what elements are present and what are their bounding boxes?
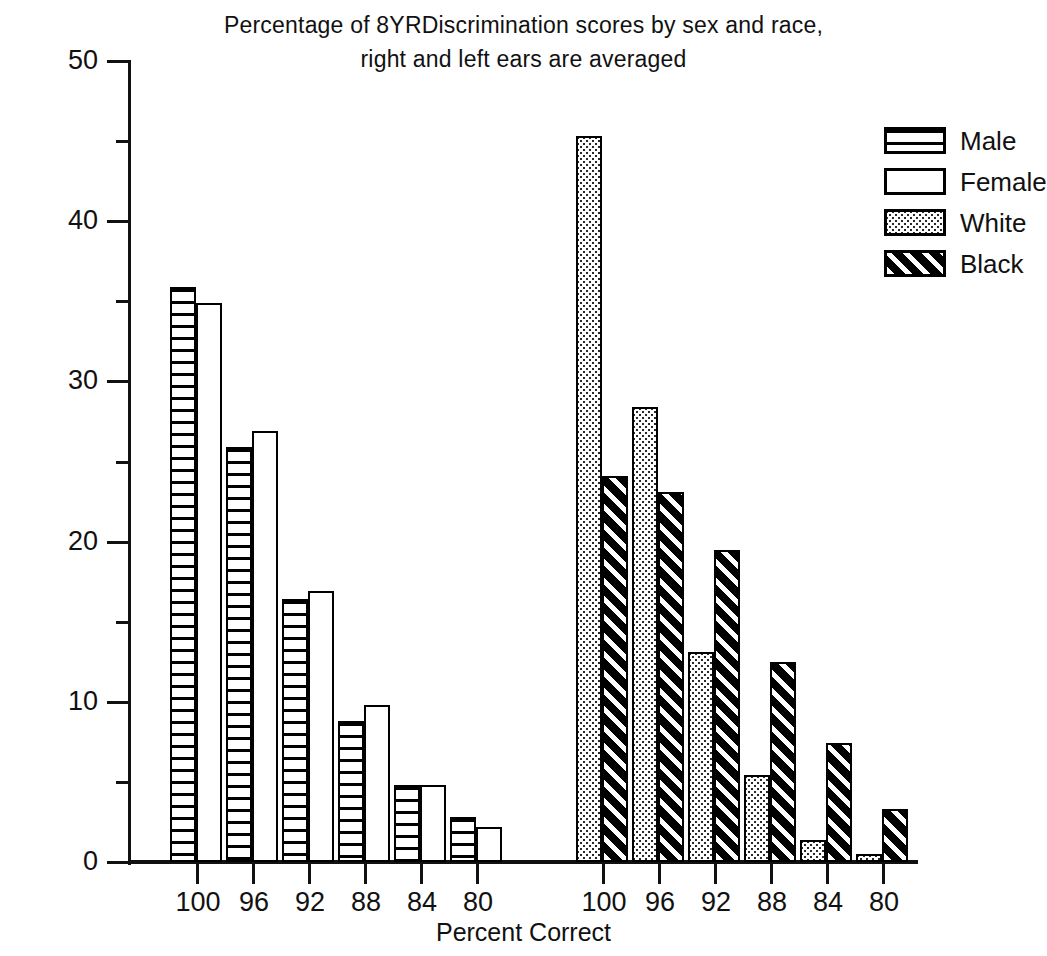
y-tick-label: 20 (36, 528, 98, 555)
y-tick-label: 40 (36, 207, 98, 234)
y-tick-minor (116, 621, 131, 624)
y-tick-major (107, 380, 131, 383)
legend-swatch-diagonal-stripes-icon (884, 250, 946, 277)
x-tick (882, 864, 885, 884)
bar-race-black-84 (826, 743, 852, 862)
legend-label: Black (960, 247, 1024, 281)
y-tick-major (107, 220, 131, 223)
bar-sex-female-80 (476, 827, 502, 862)
bar-sex-male-88 (338, 721, 364, 862)
x-tick (826, 864, 829, 884)
bar-race-white-84 (800, 840, 826, 862)
x-tick (308, 864, 311, 884)
y-tick-major (107, 60, 131, 63)
bar-race-black-80 (882, 809, 908, 862)
x-tick (602, 864, 605, 884)
legend-item-black[interactable]: Black (884, 247, 1044, 288)
legend-item-white[interactable]: White (884, 206, 1044, 247)
y-tick-minor (116, 461, 131, 464)
y-tick-minor (116, 140, 131, 143)
x-tick (196, 864, 199, 884)
bar-race-white-92 (688, 652, 714, 862)
x-axis-title: Percent Correct (0, 918, 1047, 947)
bar-sex-male-96 (226, 447, 252, 862)
bar-race-white-100 (576, 136, 602, 862)
bar-sex-female-88 (364, 705, 390, 862)
bar-sex-female-96 (252, 431, 278, 862)
y-tick-major (107, 861, 131, 864)
legend-swatch-empty-icon (884, 168, 946, 195)
x-tick (364, 864, 367, 884)
bar-race-black-96 (658, 492, 684, 862)
x-tick (420, 864, 423, 884)
x-tick-label: 80 (849, 888, 919, 916)
bar-sex-female-92 (308, 591, 334, 862)
y-tick-label: 50 (36, 47, 98, 74)
bar-sex-male-100 (170, 287, 196, 862)
bar-sex-female-100 (196, 303, 222, 862)
legend-label: Male (960, 124, 1016, 158)
y-tick-label: 10 (36, 688, 98, 715)
legend: MaleFemaleWhiteBlack (884, 124, 1044, 288)
legend-swatch-dotted-icon (884, 209, 946, 236)
bar-race-black-92 (714, 550, 740, 862)
x-tick-label: 80 (443, 888, 513, 916)
legend-item-male[interactable]: Male (884, 124, 1044, 165)
legend-label: White (960, 206, 1026, 240)
x-tick (658, 864, 661, 884)
bar-race-white-96 (632, 407, 658, 862)
bar-sex-male-84 (394, 785, 420, 862)
bar-sex-male-80 (450, 817, 476, 862)
legend-swatch-horizontal-stripes-icon (884, 127, 946, 154)
y-tick-major (107, 541, 131, 544)
chart-root: Percentage of 8YRDiscrimination scores b… (0, 0, 1047, 956)
y-tick-minor (116, 781, 131, 784)
bar-sex-male-92 (282, 599, 308, 862)
y-tick-major (107, 701, 131, 704)
y-tick-minor (116, 300, 131, 303)
x-tick (476, 864, 479, 884)
bar-sex-female-84 (420, 785, 446, 862)
legend-item-female[interactable]: Female (884, 165, 1044, 206)
bar-race-white-88 (744, 775, 770, 862)
bar-race-black-88 (770, 662, 796, 862)
x-tick (252, 864, 255, 884)
x-tick (770, 864, 773, 884)
x-tick (714, 864, 717, 884)
chart-title-line-1: Percentage of 8YRDiscrimination scores b… (224, 12, 823, 38)
bar-race-white-80 (856, 854, 882, 862)
y-tick-label: 0 (36, 848, 98, 875)
legend-label: Female (960, 165, 1047, 199)
bar-race-black-100 (602, 476, 628, 862)
y-tick-label: 30 (36, 367, 98, 394)
